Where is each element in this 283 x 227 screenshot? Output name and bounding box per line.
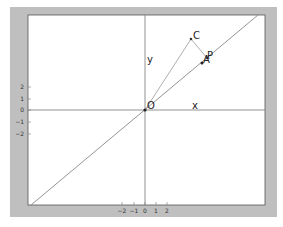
y-tick: −2 — [15, 130, 24, 137]
x-tick-labels: −2 −1 0 1 2 — [118, 207, 170, 214]
x-tick: −1 — [130, 207, 139, 214]
plot-canvas: O C A P y x 2 1 0 −1 −2 −2 −1 0 1 2 — [0, 0, 283, 227]
x-tick: 0 — [143, 207, 147, 214]
x-tick: −2 — [118, 207, 127, 214]
y-tick: 0 — [20, 106, 24, 113]
y-tick: −1 — [15, 118, 24, 125]
y-tick: 2 — [20, 83, 24, 90]
y-tick: 1 — [20, 95, 24, 102]
label-p: P — [207, 50, 213, 61]
label-c: C — [193, 30, 200, 41]
x-tick: 1 — [154, 207, 158, 214]
x-axis-label: x — [192, 100, 198, 111]
label-o: O — [147, 100, 155, 111]
y-tick-labels: 2 1 0 −1 −2 — [15, 83, 24, 137]
y-axis-label: y — [147, 54, 153, 65]
point-c — [190, 38, 193, 41]
x-tick: 2 — [165, 207, 169, 214]
